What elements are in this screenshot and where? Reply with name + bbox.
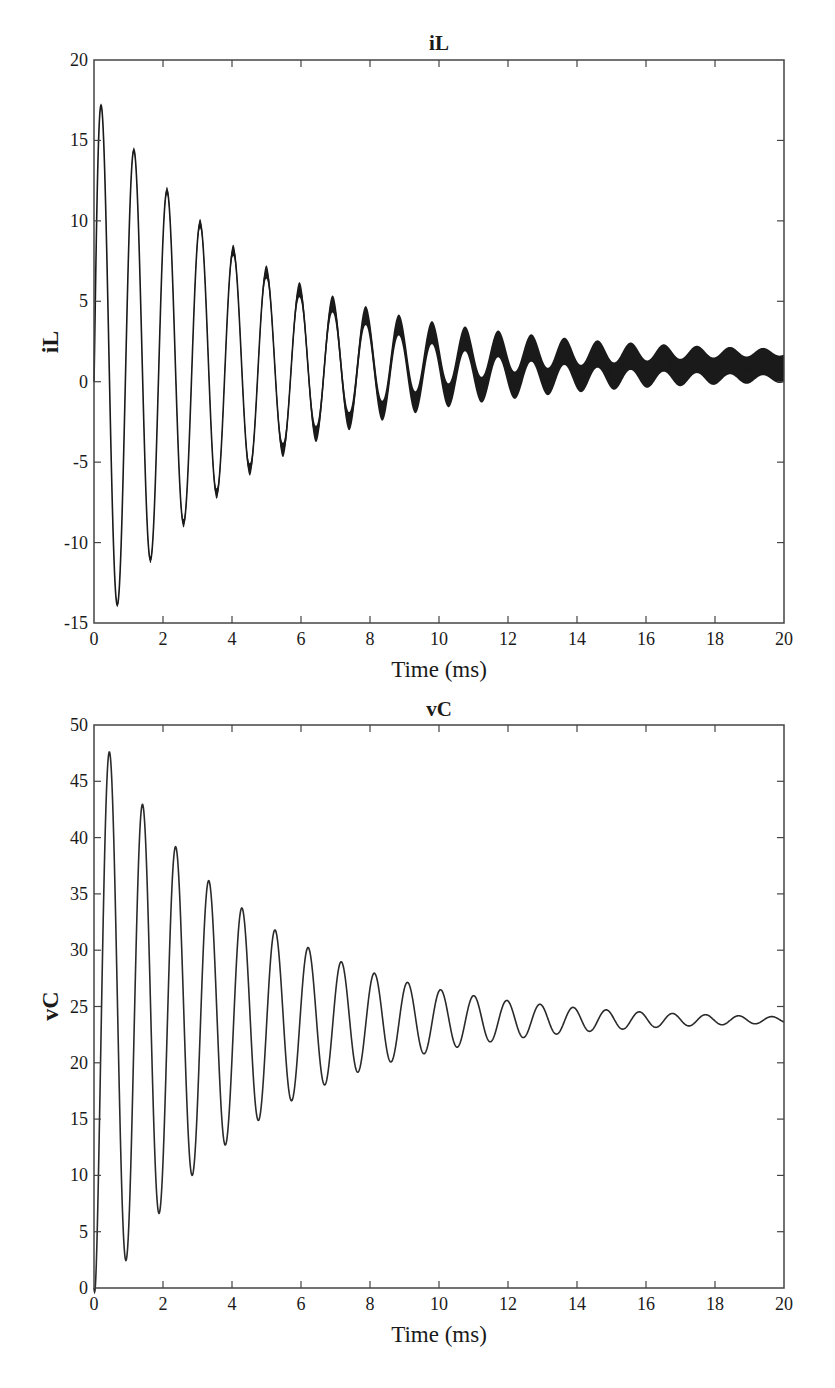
x-tick-label: 16 — [637, 1294, 655, 1314]
x-tick-label: 2 — [159, 629, 168, 649]
chart-il-y-ticks: -15-10-505101520 — [64, 50, 784, 633]
chart-il-frame — [94, 60, 784, 623]
x-tick-label: 4 — [228, 1294, 237, 1314]
chart-vc-x-axis-label: Time (ms) — [391, 1322, 487, 1347]
y-tick-label: 5 — [79, 291, 88, 311]
y-tick-label: 25 — [70, 997, 88, 1017]
y-tick-label: 40 — [70, 828, 88, 848]
y-tick-label: 45 — [70, 771, 88, 791]
y-tick-label: 50 — [70, 715, 88, 735]
x-tick-label: 10 — [430, 629, 448, 649]
figure: iL 02468101214161820 -15-10-505101520 Ti… — [0, 0, 835, 1388]
chart-il-title: iL — [429, 31, 449, 55]
x-tick-label: 10 — [430, 1294, 448, 1314]
x-tick-label: 6 — [297, 629, 306, 649]
x-tick-label: 0 — [90, 629, 99, 649]
chart-vc-title: vC — [426, 697, 452, 721]
x-tick-label: 6 — [297, 1294, 306, 1314]
il-line — [94, 105, 784, 605]
chart-vc-x-ticks: 02468101214161820 — [90, 725, 794, 1314]
chart-vc-plot-area — [94, 752, 784, 1292]
x-tick-label: 20 — [775, 629, 793, 649]
x-tick-label: 4 — [228, 629, 237, 649]
y-tick-label: 15 — [70, 1109, 88, 1129]
x-tick-label: 2 — [159, 1294, 168, 1314]
x-tick-label: 8 — [366, 1294, 375, 1314]
chart-vc-y-ticks: 05101520253035404550 — [70, 715, 784, 1298]
y-tick-label: 10 — [70, 1165, 88, 1185]
chart-il-plot-area — [94, 104, 784, 608]
vc-line — [94, 752, 784, 1292]
y-tick-label: 20 — [70, 1053, 88, 1073]
chart-il-y-axis-label: iL — [37, 331, 63, 354]
y-tick-label: 15 — [70, 130, 88, 150]
y-tick-label: 35 — [70, 884, 88, 904]
x-tick-label: 12 — [499, 629, 517, 649]
x-tick-label: 18 — [706, 629, 724, 649]
y-tick-label: 10 — [70, 211, 88, 231]
y-tick-label: 0 — [79, 1278, 88, 1298]
chart-vc: vC 02468101214161820 0510152025303540455… — [37, 697, 793, 1347]
y-tick-label: -10 — [64, 533, 88, 553]
chart-il: iL 02468101214161820 -15-10-505101520 Ti… — [37, 31, 793, 682]
y-tick-label: -5 — [73, 452, 88, 472]
x-tick-label: 16 — [637, 629, 655, 649]
y-tick-label: 0 — [79, 372, 88, 392]
x-tick-label: 18 — [706, 1294, 724, 1314]
x-tick-label: 20 — [775, 1294, 793, 1314]
y-tick-label: 20 — [70, 50, 88, 70]
x-tick-label: 0 — [90, 1294, 99, 1314]
y-tick-label: -15 — [64, 613, 88, 633]
y-tick-label: 30 — [70, 940, 88, 960]
y-tick-label: 5 — [79, 1222, 88, 1242]
chart-vc-y-axis-label: vC — [37, 991, 63, 1020]
x-tick-label: 14 — [568, 1294, 586, 1314]
x-tick-label: 14 — [568, 629, 586, 649]
chart-vc-frame — [94, 725, 784, 1288]
x-tick-label: 8 — [366, 629, 375, 649]
x-tick-label: 12 — [499, 1294, 517, 1314]
chart-il-x-axis-label: Time (ms) — [391, 657, 487, 682]
